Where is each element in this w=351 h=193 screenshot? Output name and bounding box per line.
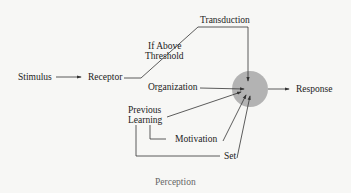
receptor-label: Receptor — [88, 72, 122, 82]
threshold-label-1: If Above — [148, 41, 182, 51]
organization-label: Organization — [148, 82, 197, 92]
previous-learning-label-1: Previous — [128, 105, 161, 115]
transduction-label: Transduction — [200, 15, 250, 25]
response-label: Response — [296, 84, 332, 94]
caption: Perception — [155, 177, 196, 187]
motivation-label: Motivation — [175, 134, 217, 144]
diagram-lines — [0, 0, 351, 193]
stimulus-label: Stimulus — [18, 72, 52, 82]
threshold-label-2: Threshold — [145, 51, 184, 61]
set-label: Set — [224, 151, 236, 161]
previous-learning-label-2: Learning — [128, 115, 162, 125]
